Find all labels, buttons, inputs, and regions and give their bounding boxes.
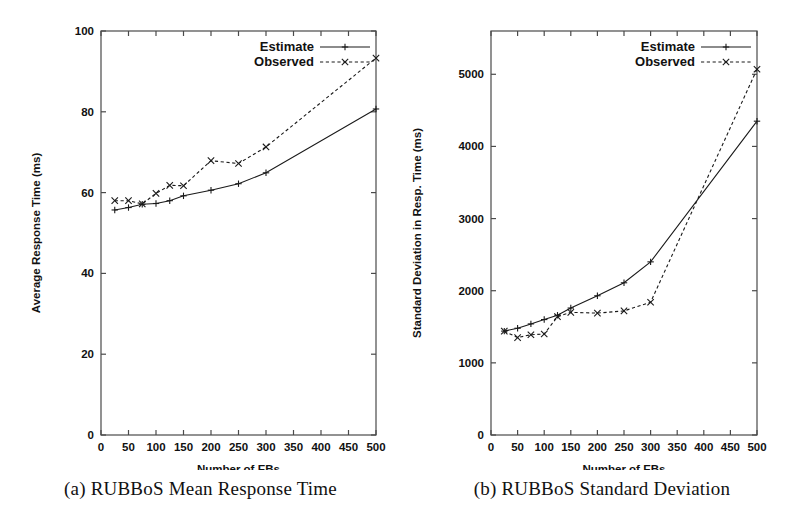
plot-frame	[101, 31, 376, 435]
series-line-observed	[504, 69, 757, 337]
data-point-marker	[167, 182, 173, 188]
x-tick-label: 400	[694, 441, 713, 453]
x-tick-label: 150	[174, 441, 193, 453]
x-tick-label: 450	[721, 441, 740, 453]
data-point-marker	[541, 331, 547, 337]
y-tick-label: 4000	[458, 140, 484, 152]
data-point-marker	[263, 144, 269, 150]
y-tick-label: 60	[81, 187, 94, 199]
x-tick-label: 300	[256, 441, 275, 453]
legend-label-observed: Observed	[635, 54, 695, 69]
y-tick-label: 100	[75, 25, 94, 37]
x-tick-label: 500	[366, 441, 385, 453]
data-point-marker	[125, 204, 131, 210]
x-tick-label: 450	[339, 441, 358, 453]
y-tick-label: 5000	[458, 68, 484, 80]
legend-label-observed: Observed	[254, 54, 314, 69]
data-point-marker	[647, 299, 653, 305]
chart-b: 0501001502002503003504004505000100020003…	[401, 0, 803, 470]
data-point-marker	[208, 187, 214, 193]
x-tick-label: 100	[535, 441, 554, 453]
plot-area-b: 0501001502002503003504004505000100020003…	[401, 0, 803, 470]
data-point-marker	[208, 157, 214, 163]
chart-a: 0501001502002503003504004505000204060801…	[0, 0, 401, 470]
data-point-marker	[342, 59, 348, 65]
y-tick-label: 20	[81, 348, 94, 360]
y-tick-label: 2000	[458, 285, 484, 297]
x-tick-label: 100	[146, 441, 165, 453]
data-point-marker	[112, 207, 118, 213]
panel-a: 0501001502002503003504004505000204060801…	[0, 0, 401, 532]
series-line-estimate	[504, 121, 757, 331]
data-point-marker	[342, 44, 348, 50]
data-point-marker	[125, 197, 131, 203]
data-point-marker	[723, 59, 729, 65]
x-tick-label: 200	[201, 441, 220, 453]
x-axis-title: Number of EBs	[582, 463, 665, 470]
x-tick-label: 0	[488, 441, 494, 453]
y-axis-title: Average Response Time (ms)	[30, 153, 42, 314]
data-point-marker	[528, 321, 534, 327]
y-tick-label: 0	[88, 429, 94, 441]
x-tick-label: 0	[98, 441, 104, 453]
x-axis-title: Number of EBs	[197, 463, 280, 470]
figure-container: 0501001502002503003504004505000204060801…	[0, 0, 803, 532]
y-tick-label: 0	[478, 429, 484, 441]
data-point-marker	[153, 190, 159, 196]
data-point-marker	[541, 316, 547, 322]
plot-area-a: 0501001502002503003504004505000204060801…	[0, 0, 401, 470]
x-tick-label: 300	[641, 441, 660, 453]
y-tick-label: 80	[81, 106, 94, 118]
x-tick-label: 50	[511, 441, 524, 453]
plot-frame	[491, 31, 757, 435]
y-axis-title: Standard Deviation in Resp. Time (ms)	[411, 128, 423, 338]
data-point-marker	[554, 312, 560, 318]
panel-b-caption: (b) RUBBoS Standard Deviation	[401, 478, 803, 500]
x-tick-label: 50	[122, 441, 135, 453]
data-point-marker	[263, 170, 269, 176]
data-point-marker	[167, 197, 173, 203]
x-tick-label: 350	[284, 441, 303, 453]
legend-label-estimate: Estimate	[260, 39, 314, 54]
panel-b: 0501001502002503003504004505000100020003…	[401, 0, 803, 532]
x-tick-label: 500	[747, 441, 766, 453]
data-point-marker	[153, 200, 159, 206]
series-line-observed	[115, 58, 376, 204]
data-point-marker	[235, 181, 241, 187]
data-point-marker	[723, 44, 729, 50]
legend-label-estimate: Estimate	[641, 39, 695, 54]
y-tick-label: 3000	[458, 213, 484, 225]
x-tick-label: 250	[614, 441, 633, 453]
data-point-marker	[514, 325, 520, 331]
x-tick-label: 200	[588, 441, 607, 453]
panel-a-caption: (a) RUBBoS Mean Response Time	[0, 478, 401, 500]
x-tick-label: 150	[561, 441, 580, 453]
x-tick-label: 400	[311, 441, 330, 453]
data-point-marker	[594, 293, 600, 299]
data-point-marker	[180, 193, 186, 199]
x-tick-label: 350	[668, 441, 687, 453]
y-tick-label: 1000	[458, 357, 484, 369]
data-point-marker	[235, 160, 241, 166]
x-tick-label: 250	[229, 441, 248, 453]
data-point-marker	[514, 334, 520, 340]
y-tick-label: 40	[81, 267, 94, 279]
